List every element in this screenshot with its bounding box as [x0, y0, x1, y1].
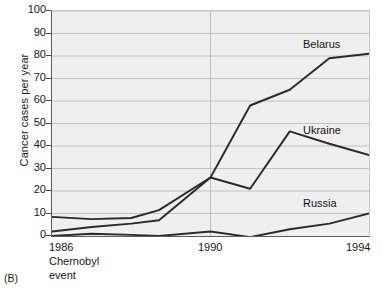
y-tick-label-100: 100	[22, 4, 46, 15]
x-tick-1990: 1990	[198, 241, 222, 253]
y-tick-label-60: 60	[22, 94, 46, 105]
y-tick-label-90: 90	[22, 27, 46, 38]
x-tick-1986: 1986	[49, 241, 73, 253]
annotation-chernobyl: Chernobyl	[49, 255, 99, 267]
y-tick-label-40: 40	[22, 139, 46, 150]
y-tick-label-0: 0	[22, 229, 46, 240]
series-label-russia: Russia	[303, 197, 337, 209]
y-tick-label-20: 20	[22, 184, 46, 195]
y-tick-label-80: 80	[22, 49, 46, 60]
annotation-event: event	[49, 269, 76, 281]
figure-panel-b: Cancer cases per year 010203040506070809…	[0, 0, 383, 292]
y-tick-label-10: 10	[22, 207, 46, 218]
series-label-belarus: Belarus	[303, 38, 340, 50]
panel-label: (B)	[4, 272, 18, 284]
series-label-ukraine: Ukraine	[303, 124, 341, 136]
x-tick-1994: 1994	[346, 241, 370, 253]
y-tick-label-30: 30	[22, 162, 46, 173]
y-tick-label-70: 70	[22, 72, 46, 83]
y-axis-ticks: 0102030405060708090100	[18, 0, 46, 292]
y-tick-label-50: 50	[22, 117, 46, 128]
